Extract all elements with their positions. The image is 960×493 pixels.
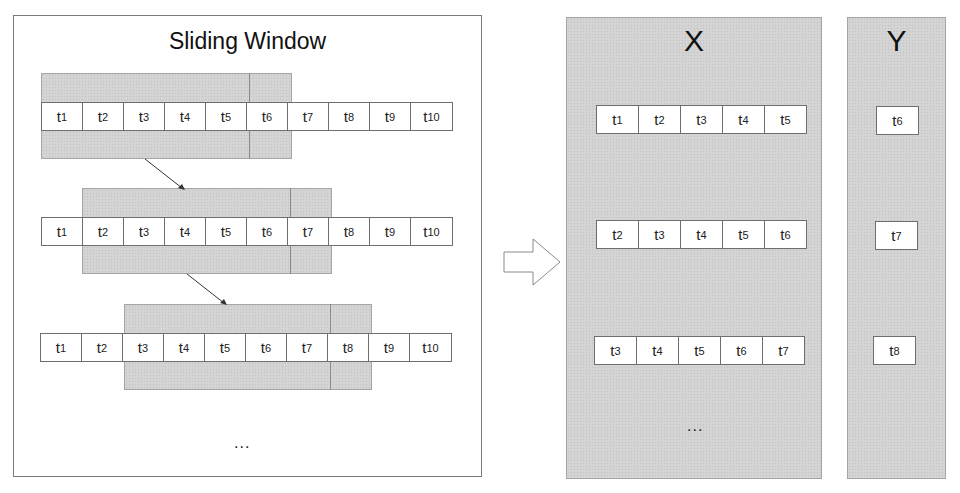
- y-row-2: t7: [875, 221, 918, 250]
- x-row-1: t1 t2 t3 t4 t5: [596, 105, 807, 134]
- sequence-cell: t6: [246, 102, 288, 131]
- sequence-cell: t1: [41, 102, 83, 131]
- sequence-cell: t1: [41, 217, 83, 246]
- slide-arrow-icon-2: [182, 270, 232, 310]
- sequence-cell: t8: [327, 333, 369, 362]
- sequence-cell: t3: [123, 102, 165, 131]
- sequence-row-2: t1 t2 t3 t4 t5 t6 t7 t8 t9 t10: [41, 217, 453, 246]
- sequence-cell: t4: [164, 217, 206, 246]
- sequence-cell: t5: [205, 217, 247, 246]
- sequence-cell: t2: [81, 333, 123, 362]
- sequence-row-1: t1 t2 t3 t4 t5 t6 t7 t8 t9 t10: [41, 102, 453, 131]
- sequence-cell: t2: [82, 102, 124, 131]
- sequence-cell: t1: [40, 333, 82, 362]
- slide-arrow-icon-1: [140, 155, 190, 195]
- sequence-cell: t3: [122, 333, 164, 362]
- sequence-cell: t9: [368, 333, 410, 362]
- x-cell: t5: [722, 220, 765, 249]
- x-cell: t5: [678, 336, 721, 365]
- y-cell: t7: [875, 221, 918, 250]
- sequence-continuation: ...: [234, 434, 250, 452]
- sequence-cell: t6: [245, 333, 287, 362]
- sequence-cell: t5: [205, 102, 247, 131]
- sequence-cell: t3: [123, 217, 165, 246]
- x-cell: t3: [680, 105, 723, 134]
- x-cell: t6: [720, 336, 763, 365]
- sequence-cell: t6: [246, 217, 288, 246]
- sequence-cell: t10: [410, 102, 453, 131]
- x-panel-label: X: [566, 24, 822, 58]
- x-row-3: t3 t4 t5 t6 t7: [594, 336, 805, 365]
- sequence-cell: t4: [163, 333, 205, 362]
- x-cell: t4: [680, 220, 723, 249]
- sequence-cell: t8: [328, 217, 370, 246]
- x-cell: t4: [722, 105, 765, 134]
- sequence-cell: t10: [409, 333, 452, 362]
- y-cell: t6: [876, 106, 919, 135]
- sequence-row-3: t1 t2 t3 t4 t5 t6 t7 t8 t9 t10: [40, 333, 452, 362]
- right-arrow-icon: [503, 237, 563, 289]
- sequence-cell: t7: [287, 102, 329, 131]
- y-cell: t8: [873, 336, 916, 365]
- sequence-cell: t10: [410, 217, 453, 246]
- x-cell: t2: [596, 220, 639, 249]
- y-row-1: t6: [876, 106, 919, 135]
- x-cell: t2: [638, 105, 681, 134]
- x-cell: t6: [764, 220, 807, 249]
- sequence-cell: t2: [82, 217, 124, 246]
- sequence-cell: t4: [164, 102, 206, 131]
- sequence-cell: t9: [369, 102, 411, 131]
- x-continuation: ...: [687, 417, 703, 435]
- x-cell: t3: [638, 220, 681, 249]
- x-cell: t7: [762, 336, 805, 365]
- sequence-cell: t7: [286, 333, 328, 362]
- x-cell: t3: [594, 336, 637, 365]
- sequence-cell: t9: [369, 217, 411, 246]
- y-panel-label: Y: [847, 24, 946, 58]
- sliding-window-title: Sliding Window: [13, 28, 482, 55]
- x-cell: t1: [596, 105, 639, 134]
- y-row-3: t8: [873, 336, 916, 365]
- sequence-cell: t8: [328, 102, 370, 131]
- sliding-window-diagram: Sliding Window t1 t2 t3 t4 t5 t6 t7 t8 t…: [0, 0, 960, 493]
- x-cell: t4: [636, 336, 679, 365]
- sequence-cell: t5: [204, 333, 246, 362]
- sequence-cell: t7: [287, 217, 329, 246]
- x-row-2: t2 t3 t4 t5 t6: [596, 220, 807, 249]
- x-cell: t5: [764, 105, 807, 134]
